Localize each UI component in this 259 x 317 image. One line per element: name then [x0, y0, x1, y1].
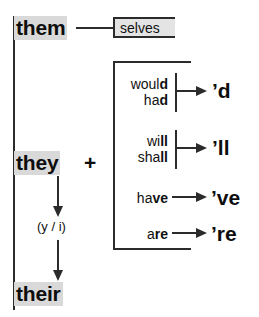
pronoun-contraction-diagram: them selves they + would had ’d will sha… — [0, 0, 259, 317]
source-word-will: will — [147, 133, 168, 149]
source-word-have: have — [137, 190, 168, 206]
arrow-they-to-vowel-note — [51, 176, 65, 218]
stem-their: their — [14, 282, 63, 306]
arrow-to-ve — [172, 191, 208, 203]
contraction-re: ’re — [211, 223, 237, 244]
contraction-ve: ’ve — [211, 187, 240, 208]
contraction-d: ’d — [212, 80, 231, 101]
source-words-have: have — [124, 190, 168, 206]
them-selves-connector-line — [76, 27, 114, 29]
source-word-shall: shall — [138, 149, 168, 165]
arrow-to-ll — [176, 142, 208, 154]
stem-them: them — [14, 16, 67, 40]
source-word-are: are — [147, 226, 168, 242]
arrow-to-d — [176, 85, 208, 97]
arrow-vowel-note-to-their — [51, 240, 65, 282]
selves-label: selves — [120, 20, 160, 36]
contraction-ll: ’ll — [212, 137, 230, 158]
source-words-will-shall: will shall — [124, 133, 168, 165]
vowel-change-note: (y / i) — [37, 219, 66, 234]
source-words-are: are — [124, 226, 168, 242]
stem-they: they — [14, 151, 60, 175]
plus-sign: + — [84, 152, 96, 173]
arrow-to-re — [172, 227, 208, 239]
source-word-had: had — [144, 92, 168, 108]
source-words-would-had: would had — [124, 76, 168, 108]
source-word-would: would — [131, 76, 168, 92]
